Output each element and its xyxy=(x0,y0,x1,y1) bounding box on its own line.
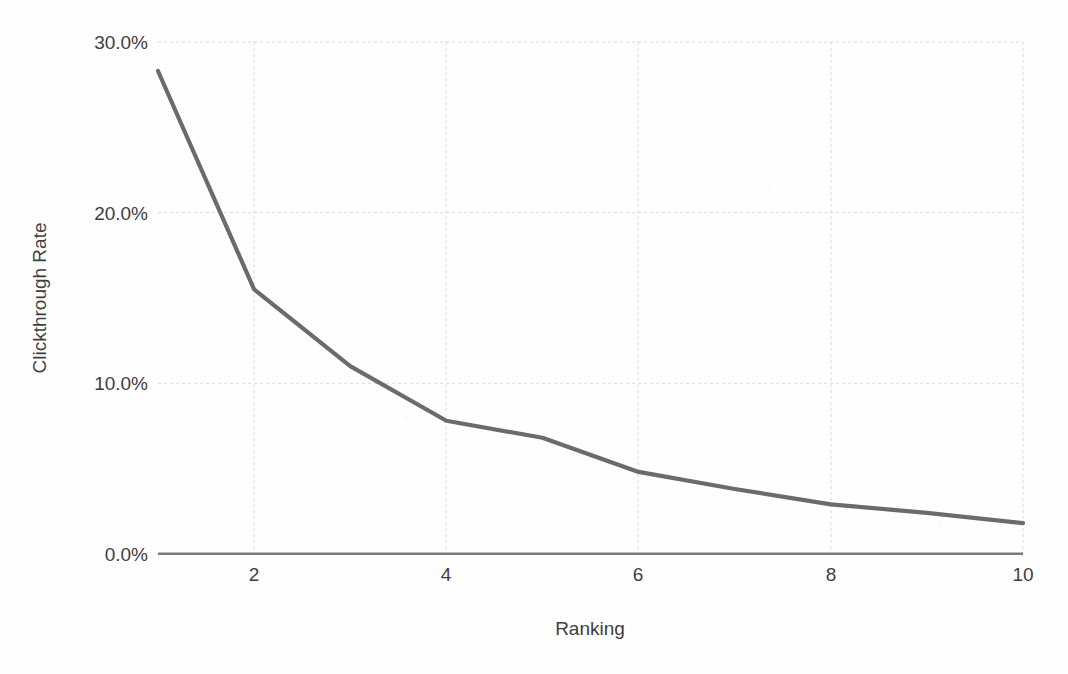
x-tick-label-2: 2 xyxy=(249,564,260,585)
y-tick-labels: 30.0% 20.0% 10.0% 0.0% xyxy=(94,32,148,565)
y-axis-title: Clickthrough Rate xyxy=(29,222,50,373)
series-line-clickthrough-rate xyxy=(158,71,1023,523)
line-chart: 30.0% 20.0% 10.0% 0.0% 2 4 6 8 10 Rankin… xyxy=(0,0,1068,674)
y-tick-label-30: 30.0% xyxy=(94,32,148,53)
y-tick-label-10: 10.0% xyxy=(94,373,148,394)
x-tick-labels: 2 4 6 8 10 xyxy=(249,564,1034,585)
x-tick-label-10: 10 xyxy=(1012,564,1033,585)
x-tick-label-8: 8 xyxy=(826,564,837,585)
y-tick-label-0: 0.0% xyxy=(105,544,148,565)
chart-container: 30.0% 20.0% 10.0% 0.0% 2 4 6 8 10 Rankin… xyxy=(0,0,1068,674)
vertical-gridlines xyxy=(254,42,1023,554)
x-tick-label-6: 6 xyxy=(633,564,644,585)
x-tick-label-4: 4 xyxy=(441,564,452,585)
horizontal-gridlines xyxy=(158,42,1023,383)
x-axis-title: Ranking xyxy=(555,618,625,639)
y-tick-label-20: 20.0% xyxy=(94,203,148,224)
